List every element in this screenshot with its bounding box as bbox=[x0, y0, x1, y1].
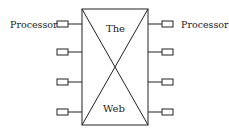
right-processor-label: Processor bbox=[181, 19, 229, 30]
left-processor bbox=[57, 21, 82, 27]
right-processor bbox=[148, 109, 173, 115]
center-label-top: The bbox=[106, 23, 125, 34]
left-processor bbox=[57, 109, 82, 115]
right-processor bbox=[148, 49, 173, 55]
left-processor bbox=[57, 79, 82, 85]
web-diagram: Processor Processor The Web bbox=[0, 0, 229, 132]
right-processor bbox=[148, 79, 173, 85]
right-processor bbox=[148, 21, 173, 27]
left-processor-label: Processor bbox=[10, 19, 58, 30]
center-label-bottom: Web bbox=[103, 103, 125, 114]
left-processor bbox=[57, 49, 82, 55]
